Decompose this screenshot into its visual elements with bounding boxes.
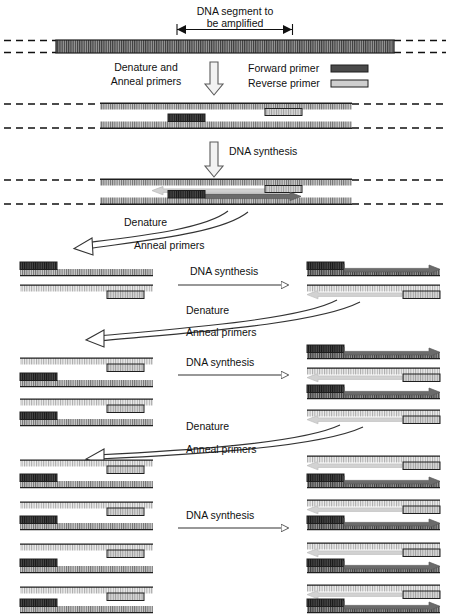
strand-c3r-2: [307, 368, 440, 382]
strand-c3l-1: [20, 358, 153, 372]
cycle-3-right: [307, 345, 440, 424]
strand-c2r-2: [307, 285, 440, 299]
strand-c4l-6: [20, 559, 153, 573]
strand-c2l-1: [20, 262, 153, 276]
strand-c3l-3: [20, 399, 153, 413]
reverse-primer-s3: [265, 186, 302, 193]
reverse-primer-s2: [265, 109, 302, 116]
cycle-2-right: [307, 262, 440, 299]
strand-c4r-6: [307, 559, 440, 573]
strand-c2l-2: [20, 285, 153, 299]
denature-label-4: Denature: [186, 420, 229, 432]
strand-c3l-4: [20, 412, 153, 426]
strand-c4r-2: [307, 474, 440, 488]
template-strand-top-s3: [100, 179, 352, 186]
pcr-diagram: DNA segment to be amplified Denature and…: [0, 0, 450, 616]
legend-forward-primer-label: Forward primer: [248, 62, 319, 74]
strand-c4r-8: [307, 599, 440, 613]
dna-synthesis-label-3: DNA synthesis: [186, 356, 254, 368]
legend-swatches: [331, 65, 368, 87]
denature-anneal-arrow-1: [205, 62, 223, 95]
strand-c4l-8: [20, 599, 153, 613]
amplified-segment-label-line2: be amplified: [186, 17, 284, 29]
cycle-4-left: [20, 460, 153, 613]
denature-label-3: Denature: [186, 304, 229, 316]
cycle-2-left: [20, 262, 153, 299]
strand-c4r-1: [307, 456, 440, 470]
anneal-primers-label-1: Anneal primers: [96, 75, 196, 87]
strand-c4l-7: [20, 587, 153, 601]
strand-c4l-2: [20, 474, 153, 488]
genomic-duplex: [56, 40, 394, 53]
anneal-primers-label-3: Anneal primers: [186, 326, 257, 338]
strand-c3r-3: [307, 385, 440, 399]
template-strand-top-s2: [100, 103, 352, 110]
stage-denature-anneal-1: [4, 103, 446, 128]
strand-c3l-2: [20, 373, 153, 387]
cycle-3-left: [20, 358, 153, 426]
strand-c4l-5: [20, 544, 153, 558]
strand-c3r-4: [307, 410, 440, 424]
strand-c4l-3: [20, 502, 153, 516]
strand-c4l-1: [20, 460, 153, 474]
strand-c4l-4: [20, 516, 153, 530]
anneal-primers-label-2: Anneal primers: [134, 239, 205, 251]
template-strand-bottom-s2: [100, 122, 352, 129]
strand-c2r-1: [307, 262, 440, 276]
forward-primer-s2: [168, 114, 205, 122]
denature-and-label: Denature and: [96, 61, 196, 73]
strand-c4r-5: [307, 543, 440, 557]
dna-synthesis-label-1: DNA synthesis: [229, 145, 297, 157]
dna-synthesis-label-2: DNA synthesis: [190, 265, 258, 277]
dna-synthesis-arrow-1: [205, 142, 223, 177]
forward-primer-s3: [168, 191, 205, 199]
strand-c3r-1: [307, 345, 440, 359]
strand-c4r-7: [307, 585, 440, 599]
denature-label-2: Denature: [124, 216, 167, 228]
strand-c4r-3: [307, 500, 440, 514]
dna-synthesis-label-4: DNA synthesis: [186, 509, 254, 521]
anneal-primers-label-4: Anneal primers: [186, 443, 257, 455]
legend-reverse-primer-label: Reverse primer: [248, 77, 320, 89]
cycle-4-right: [307, 456, 440, 613]
amplified-segment-label-line1: DNA segment to: [186, 5, 284, 17]
strand-c4r-4: [307, 516, 440, 530]
stage-synthesis-1: [4, 179, 446, 204]
